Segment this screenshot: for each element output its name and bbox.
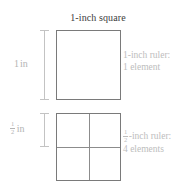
dimension-bar-half-inch <box>40 113 49 147</box>
fraction-denominator: 2 <box>123 137 128 144</box>
dimension-bar-1-inch <box>40 30 49 100</box>
annotation-line-1: 1-inch ruler: <box>123 50 170 62</box>
dimension-stem <box>44 30 45 100</box>
fraction-one-half: 1 2 <box>123 129 128 144</box>
fraction-numerator: 1 <box>10 121 15 128</box>
measure-unit: in <box>17 123 25 134</box>
measure-value: 1 <box>14 58 19 69</box>
dimension-cap-bottom <box>40 146 49 147</box>
square-half-inch-grid <box>56 113 121 181</box>
annotation-element-count: 1 element <box>123 62 160 74</box>
annotation-line-2: 4 elements <box>123 144 171 156</box>
annotation-line-2: 1 element <box>123 62 170 74</box>
dimension-stem <box>44 113 45 147</box>
gridline-horizontal <box>57 147 120 148</box>
fraction-numerator: 1 <box>123 129 128 136</box>
measure-label-1-inch: 1 in <box>14 58 28 69</box>
annotation-ruler-text: 1-inch ruler: <box>123 50 170 62</box>
square-1-inch <box>56 30 121 100</box>
page-title: 1-inch square <box>53 12 143 23</box>
annotation-1-inch-ruler: 1-inch ruler: 1 element <box>123 50 170 73</box>
annotation-ruler-text: -inch ruler: <box>129 131 171 143</box>
annotation-half-inch-ruler: 1 2 -inch ruler: 4 elements <box>123 129 171 156</box>
ruler-elements-diagram: 1-inch square 1 in 1-inch ruler: 1 eleme… <box>0 0 193 192</box>
fraction-one-half: 1 2 <box>10 121 15 136</box>
measure-label-half-inch: 1 2 in <box>10 121 25 136</box>
measure-unit: in <box>20 58 28 69</box>
annotation-element-count: 4 elements <box>123 144 164 156</box>
dimension-cap-bottom <box>40 99 49 100</box>
annotation-line-1: 1 2 -inch ruler: <box>123 129 171 144</box>
fraction-denominator: 2 <box>10 129 15 136</box>
